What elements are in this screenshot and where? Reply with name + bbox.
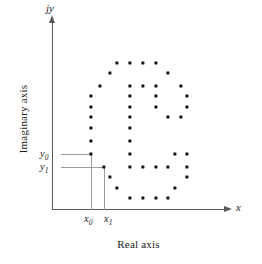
data-point [154,94,157,97]
data-point [179,84,182,87]
data-point [128,115,131,118]
data-point [154,196,157,199]
data-point [141,84,144,87]
data-point [141,165,144,168]
data-point [108,71,111,74]
data-point [166,196,169,199]
data-point [154,84,157,87]
tick-label-x1: x1 [104,213,112,227]
complex-plane-scatter-figure: jy x Imaginary axis Real axis y0 y1 x0 x… [0,0,262,264]
data-point [89,139,92,142]
guide-y1-horizontal [61,167,104,168]
data-point [173,186,176,189]
tick-label-y1-sub: 1 [45,166,49,175]
data-point [185,165,188,168]
data-point [89,115,92,118]
data-point [154,61,157,64]
data-point [141,196,144,199]
data-point [89,105,92,108]
imaginary-axis-title: Imaginary axis [17,49,29,189]
data-point [128,152,131,155]
real-axis-line [52,209,225,210]
tick-label-x0: x0 [84,213,92,227]
data-point [154,105,157,108]
data-point [166,115,169,118]
data-point [185,105,188,108]
data-point [166,165,169,168]
data-point [89,94,92,97]
data-point [128,165,131,168]
data-point [173,152,176,155]
data-point [128,126,131,129]
real-axis-variable-label: x [236,201,241,213]
data-point [185,94,188,97]
imaginary-axis-line [52,22,53,210]
data-point [128,105,131,108]
data-point [128,196,131,199]
data-point [154,165,157,168]
data-point [115,61,118,64]
data-point [128,139,131,142]
data-point [115,186,118,189]
tick-label-x0-sub: 0 [89,218,93,227]
data-point [185,152,188,155]
data-point [128,94,131,97]
tick-label-x1-sub: 1 [109,218,113,227]
data-points-layer [0,0,262,264]
real-axis-arrow-icon [224,206,232,212]
data-point [128,61,131,64]
guide-y0-horizontal [61,154,91,155]
tick-label-y1: y1 [40,161,48,175]
data-point [98,84,101,87]
guide-x1-vertical [104,167,105,210]
data-point [185,175,188,178]
data-point [89,126,92,129]
data-point [179,115,182,118]
real-axis-title: Real axis [52,238,225,250]
data-point [128,84,131,87]
imaginary-axis-variable-label: jy [46,2,54,14]
tick-label-y0: y0 [40,148,48,162]
data-point [141,61,144,64]
guide-x0-vertical [91,154,92,210]
imaginary-axis-arrow-icon [49,15,55,23]
data-point [166,71,169,74]
data-point [108,175,111,178]
